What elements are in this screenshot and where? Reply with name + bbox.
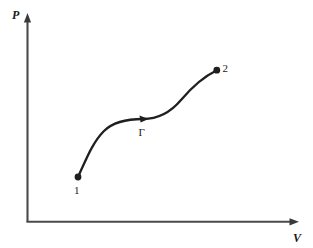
point-2-label: 2 xyxy=(223,62,229,74)
marker-point-1 xyxy=(75,174,82,181)
pv-diagram-canvas: P V 1 2 Γ xyxy=(0,0,313,248)
process-path-label: Γ xyxy=(139,126,145,138)
x-axis-label: V xyxy=(293,231,302,245)
pv-diagram-figure: P V 1 2 Γ xyxy=(0,0,313,248)
figure-background xyxy=(0,0,313,248)
marker-point-2 xyxy=(213,67,220,74)
point-1-label: 1 xyxy=(74,184,80,196)
y-axis-label: P xyxy=(12,8,20,22)
